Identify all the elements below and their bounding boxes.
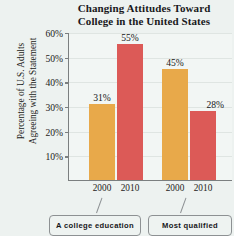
callout-pointer-line xyxy=(96,198,103,213)
x-axis-tick-label: 2010 xyxy=(121,183,140,193)
y-axis-title: Percentage of U.S. Adults Agreeing with … xyxy=(16,16,42,166)
bar-value-label: 31% xyxy=(93,92,111,103)
bar-value-label: 45% xyxy=(166,57,184,68)
callout-pointer-line xyxy=(180,198,187,213)
y-axis-title-line-2: Agreeing with the Statement xyxy=(28,16,40,166)
y-axis-tick-mark xyxy=(65,107,69,108)
y-axis-tick-label: 60% xyxy=(45,28,63,39)
chart-title-line-2: College in the United States xyxy=(56,15,232,28)
gridline xyxy=(69,33,232,34)
y-axis-tick-label: 40% xyxy=(45,77,63,88)
y-axis-title-line-1: Percentage of U.S. Adults xyxy=(16,16,28,166)
bar-value-label: 28% xyxy=(206,99,224,110)
y-axis-tick-mark xyxy=(65,33,69,34)
bar: 28%2010 xyxy=(190,111,216,180)
bar-value-label: 55% xyxy=(121,32,139,43)
gridline xyxy=(69,58,232,59)
x-axis-tick-label: 2000 xyxy=(166,183,185,193)
chart-title-line-1: Changing Attitudes Toward xyxy=(56,2,232,15)
y-axis-tick-mark xyxy=(65,58,69,59)
chart-title: Changing Attitudes Toward College in the… xyxy=(56,2,232,27)
y-axis-tick-label: 20% xyxy=(45,126,63,137)
bar: 55%2010 xyxy=(117,44,143,180)
y-axis-tick-mark xyxy=(65,82,69,83)
y-axis-tick-mark xyxy=(65,156,69,157)
gridline xyxy=(69,82,232,83)
y-axis-tick-label: 50% xyxy=(45,52,63,63)
bar: 45%2000 xyxy=(162,69,188,180)
chart-figure: Changing Attitudes Toward College in the… xyxy=(0,0,234,236)
callout-label: Most qualified xyxy=(148,215,232,236)
x-axis-tick-label: 2010 xyxy=(194,183,213,193)
y-axis-tick-mark xyxy=(65,132,69,133)
bar: 31%2000 xyxy=(89,104,115,180)
x-axis-tick-label: 2000 xyxy=(93,183,112,193)
y-axis-tick-label: 30% xyxy=(45,102,63,113)
callout-label: A college education xyxy=(49,215,141,236)
y-axis-tick-label: 10% xyxy=(45,151,63,162)
plot-area: 60%50%40%30%20%10%31%200055%201045%20002… xyxy=(68,33,232,181)
